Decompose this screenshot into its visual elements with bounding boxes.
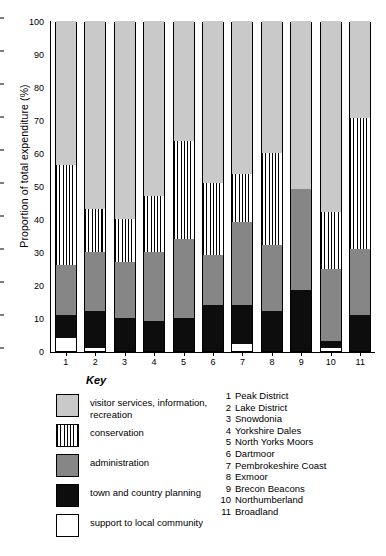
segment-administration-bar-10: [321, 269, 341, 342]
park-name: Northumberland: [235, 494, 303, 505]
segment-town-and-country-planning-bar-2: [85, 311, 105, 347]
y-tick-mark-10: [0, 315, 4, 316]
x-tick-mark-5: [184, 352, 185, 356]
administration-swatch: [56, 454, 79, 477]
y-tick-mark-100: [0, 18, 4, 19]
bar-10[interactable]: [320, 22, 342, 352]
segment-administration-bar-5: [174, 239, 194, 318]
y-tick-label-30: 30: [4, 249, 51, 258]
x-tick-mark-6: [213, 352, 214, 356]
segment-town-and-country-planning-bar-10: [321, 341, 341, 348]
segment-conservation-bar-11: [350, 118, 370, 248]
park-name: Broadland: [235, 506, 278, 517]
x-tick-label-8: 8: [260, 358, 284, 367]
park-list-item: 8Exmoor: [215, 471, 380, 483]
y-tick-mark-70: [0, 117, 4, 118]
y-tick-label-90: 90: [4, 51, 51, 60]
segment-administration-bar-11: [350, 249, 370, 315]
segment-visitor-services-bar-9: [291, 21, 311, 189]
segment-town-and-country-planning-bar-3: [115, 318, 135, 351]
bar-7[interactable]: [231, 22, 253, 352]
segment-support-to-local-community-bar-10: [321, 348, 341, 351]
y-tick-label-20: 20: [4, 282, 51, 291]
park-name: Lake District: [235, 402, 287, 413]
y-tick-mark-90: [0, 51, 4, 52]
y-tick-mark-80: [0, 84, 4, 85]
bar-4[interactable]: [143, 22, 165, 352]
y-tick-label-0: 0: [4, 348, 51, 357]
segment-conservation-bar-10: [321, 212, 341, 268]
park-number: 3: [215, 413, 231, 425]
y-tick-label-100: 100: [4, 18, 51, 27]
bar-1[interactable]: [55, 22, 77, 352]
park-name: Snowdonia: [235, 413, 282, 424]
x-tick-label-10: 10: [319, 358, 343, 367]
y-tick-mark-30: [0, 249, 4, 250]
segment-visitor-services-bar-11: [350, 21, 370, 118]
x-tick-mark-2: [95, 352, 96, 356]
segment-administration-bar-9: [291, 189, 311, 290]
x-tick-label-2: 2: [83, 358, 107, 367]
segment-conservation-bar-5: [174, 141, 194, 238]
conservation-swatch: [56, 424, 79, 447]
segment-town-and-country-planning-bar-1: [56, 315, 76, 338]
park-list-item: 10Northumberland: [215, 494, 380, 506]
park-number: 7: [215, 460, 231, 472]
x-tick-label-9: 9: [289, 358, 313, 367]
x-tick-label-5: 5: [172, 358, 196, 367]
segment-conservation-bar-1: [56, 165, 76, 266]
park-number: 5: [215, 436, 231, 448]
x-tick-mark-4: [154, 352, 155, 356]
park-list-item: 6Dartmoor: [215, 448, 380, 460]
segment-support-to-local-community-bar-2: [85, 348, 105, 351]
segment-town-and-country-planning-bar-5: [174, 318, 194, 351]
segment-conservation-bar-3: [115, 219, 135, 262]
town-and-country-planning-swatch: [56, 484, 79, 507]
park-name: Peak District: [235, 390, 288, 401]
bar-8[interactable]: [261, 22, 283, 352]
segment-support-to-local-community-bar-1: [56, 338, 76, 351]
segment-conservation-bar-2: [85, 209, 105, 252]
park-list-item: 3Snowdonia: [215, 413, 380, 425]
x-tick-label-11: 11: [348, 358, 372, 367]
segment-town-and-country-planning-bar-9: [291, 290, 311, 351]
y-tick-mark-0: [0, 348, 4, 349]
park-list-item: 2Lake District: [215, 402, 380, 414]
segment-visitor-services-bar-7: [232, 21, 252, 174]
segment-administration-bar-4: [144, 252, 164, 321]
y-tick-label-40: 40: [4, 216, 51, 225]
segment-town-and-country-planning-bar-7: [232, 305, 252, 345]
x-tick-label-7: 7: [230, 358, 254, 367]
park-name: Dartmoor: [235, 448, 275, 459]
segment-administration-bar-1: [56, 265, 76, 315]
y-tick-mark-60: [0, 150, 4, 151]
segment-visitor-services-bar-2: [85, 21, 105, 209]
bar-11[interactable]: [349, 22, 371, 352]
park-list-item: 11Broadland: [215, 506, 380, 518]
support-to-local-community-swatch: [56, 514, 79, 537]
bar-6[interactable]: [202, 22, 224, 352]
segment-visitor-services-bar-10: [321, 21, 341, 212]
park-list-item: 9Brecon Beacons: [215, 483, 380, 495]
y-tick-label-50: 50: [4, 183, 51, 192]
segment-town-and-country-planning-bar-6: [203, 305, 223, 351]
park-number: 1: [215, 390, 231, 402]
bar-2[interactable]: [84, 22, 106, 352]
y-tick-label-70: 70: [4, 117, 51, 126]
park-number: 4: [215, 425, 231, 437]
segment-administration-bar-2: [85, 252, 105, 311]
bar-3[interactable]: [114, 22, 136, 352]
segment-conservation-bar-4: [144, 196, 164, 252]
bar-5[interactable]: [173, 22, 195, 352]
segment-visitor-services-bar-5: [174, 21, 194, 141]
x-tick-mark-10: [331, 352, 332, 356]
segment-administration-bar-7: [232, 222, 252, 305]
segment-conservation-bar-7: [232, 174, 252, 222]
y-tick-label-60: 60: [4, 150, 51, 159]
stacked-bar-chart: Proportion of total expenditure (%) 0102…: [0, 0, 386, 370]
bar-9[interactable]: [290, 22, 312, 352]
x-tick-mark-7: [242, 352, 243, 356]
park-list-item: 4Yorkshire Dales: [215, 425, 380, 437]
legend-title: Key: [86, 374, 106, 386]
segment-administration-bar-8: [262, 245, 282, 311]
